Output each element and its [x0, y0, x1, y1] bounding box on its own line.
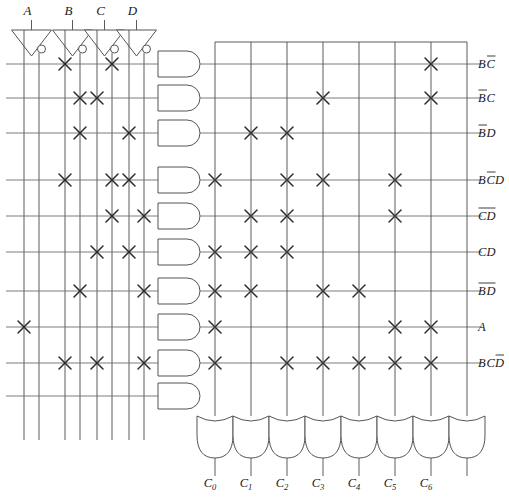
- product-label-char-3-0: B: [478, 126, 486, 140]
- output-label-5: C5: [384, 476, 397, 492]
- output-label-6: C6: [420, 476, 433, 492]
- product-term-label-4: BCD: [478, 172, 504, 187]
- or-gate-6: [413, 416, 449, 458]
- or-gate-0: [197, 416, 233, 458]
- output-group-2: C2: [269, 416, 305, 492]
- output-group-5: C5: [377, 416, 413, 492]
- product-label-char-2-0: B: [478, 91, 486, 105]
- product-row-9: BCD: [6, 350, 504, 376]
- inverter-bubble-B: [79, 45, 87, 53]
- input-header: ABCD: [12, 3, 157, 440]
- product-row-8: A: [6, 314, 486, 340]
- inverter-A: [12, 30, 52, 56]
- output-subscript-3: 3: [319, 482, 324, 492]
- inverter-B: [53, 30, 93, 56]
- or-gate-7: [449, 416, 485, 458]
- product-label-char-4-0: B: [478, 173, 486, 187]
- input-label-B: B: [65, 3, 73, 18]
- inverter-C: [85, 30, 125, 56]
- pla-diagram-canvas: ABCDBCBCBDBCDCDCDBDABCDC0C1C2C3C4C5C6: [0, 0, 509, 498]
- product-term-label-1: BC: [478, 56, 496, 71]
- output-label-3: C3: [312, 476, 325, 492]
- output-subscript-4: 4: [356, 482, 361, 492]
- and-gate-6: [158, 239, 200, 265]
- output-label-1: C1: [240, 476, 253, 492]
- output-label-0: C0: [204, 476, 217, 492]
- product-term-label-3: BD: [478, 125, 496, 140]
- product-label-char-8-0: A: [477, 320, 486, 334]
- input-label-D: D: [127, 3, 138, 18]
- output-group-4: C4: [341, 416, 377, 492]
- product-term-label-9: BCD: [478, 355, 504, 370]
- or-gate-5: [377, 416, 413, 458]
- inverter-bubble-A: [38, 45, 46, 53]
- output-subscript-5: 5: [392, 482, 396, 492]
- product-label-char-3-1: D: [486, 126, 496, 140]
- product-term-label-8: A: [477, 320, 486, 334]
- product-label-char-9-0: B: [478, 356, 486, 370]
- product-label-char-7-1: D: [486, 284, 496, 298]
- and-plane: BCBCBDBCDCDCDBDABCD: [6, 51, 504, 409]
- output-subscript-0: 0: [212, 482, 217, 492]
- product-label-char-4-2: D: [494, 173, 504, 187]
- product-term-label-2: BC: [478, 90, 496, 105]
- or-gate-2: [269, 416, 305, 458]
- input-label-C: C: [96, 3, 105, 18]
- inverter-bubble-D: [143, 45, 151, 53]
- product-row-4: BCD: [6, 167, 504, 193]
- output-gates: C0C1C2C3C4C5C6: [197, 416, 485, 492]
- product-label-char-2-1: C: [487, 91, 496, 105]
- and-gate-9: [158, 350, 200, 376]
- product-label-char-1-0: B: [478, 57, 486, 71]
- output-group-6: C6: [413, 416, 449, 492]
- pla-schematic: ABCDBCBCBDBCDCDCDBDABCDC0C1C2C3C4C5C6: [0, 0, 509, 498]
- and-gate-1: [158, 51, 200, 77]
- output-label-2: C2: [276, 476, 289, 492]
- output-group-0: C0: [197, 416, 233, 492]
- and-gate-10: [158, 383, 200, 409]
- input-label-A: A: [23, 3, 32, 18]
- or-gate-1: [233, 416, 269, 458]
- and-gate-5: [158, 203, 200, 229]
- and-gate-7: [158, 278, 200, 304]
- inverter-bubble-C: [111, 45, 119, 53]
- input-group-A: A: [12, 3, 52, 440]
- inverter-D: [117, 30, 157, 56]
- output-label-4: C4: [348, 476, 361, 492]
- and-gate-4: [158, 167, 200, 193]
- output-subscript-2: 2: [284, 482, 289, 492]
- product-label-char-7-0: B: [478, 284, 486, 298]
- product-label-char-6-1: D: [486, 245, 496, 259]
- or-gate-4: [341, 416, 377, 458]
- product-term-label-6: CD: [478, 245, 496, 259]
- output-group-3: C3: [305, 416, 341, 492]
- or-gate-3: [305, 416, 341, 458]
- product-label-char-5-1: D: [486, 209, 496, 223]
- product-term-label-7: BD: [478, 283, 496, 298]
- product-term-label-5: CD: [478, 208, 496, 223]
- input-group-B: B: [53, 3, 93, 440]
- and-gate-8: [158, 314, 200, 340]
- output-group-7: [449, 416, 485, 476]
- output-subscript-6: 6: [428, 482, 433, 492]
- and-gate-3: [158, 120, 200, 146]
- product-row-10: [6, 383, 200, 409]
- product-label-char-9-2: D: [494, 356, 504, 370]
- and-gate-2: [158, 85, 200, 111]
- output-subscript-1: 1: [248, 482, 252, 492]
- output-group-1: C1: [233, 416, 269, 492]
- product-label-char-1-1: C: [487, 57, 496, 71]
